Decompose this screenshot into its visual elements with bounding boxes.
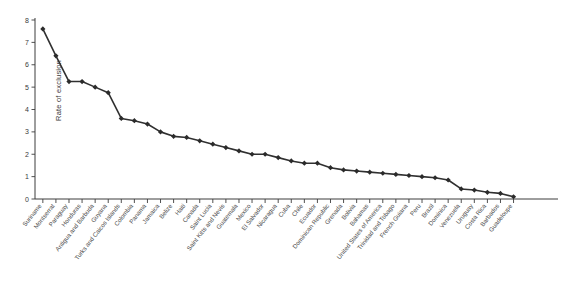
y-tick-label: 6 [25,61,29,68]
data-point [393,172,398,177]
data-point [406,173,411,178]
y-tick-label: 0 [25,196,29,203]
y-axis-ticks: 012345678 [25,17,35,203]
data-point [432,175,437,180]
data-point [367,170,372,175]
data-point [328,165,333,170]
y-tick-label: 7 [25,39,29,46]
data-point-markers [40,26,516,199]
x-axis-category-labels: SurinameMontserratParaguayHondurasAntigu… [21,202,514,262]
exclusion-rate-line [43,29,514,197]
x-tick-label: Belize [157,202,173,220]
data-point [315,161,320,166]
x-axis-ticks [43,199,514,203]
data-point [380,171,385,176]
data-point [171,134,176,139]
data-point [498,191,503,196]
data-point [276,155,281,160]
data-point [79,79,84,84]
data-point [66,79,71,84]
data-point [249,152,254,157]
data-point [485,190,490,195]
data-point [419,174,424,179]
chart-plot-area: 012345678 SurinameMontserratParaguayHond… [0,0,565,282]
data-point [132,118,137,123]
data-point [184,135,189,140]
data-point [210,142,215,147]
data-point [472,187,477,192]
y-tick-label: 4 [25,106,29,113]
data-point [263,152,268,157]
data-point [197,138,202,143]
y-axis-title: Rate of exclusion [54,31,63,151]
rate-of-exclusion-chart: Rate of exclusion 012345678 SurinameMont… [0,0,565,282]
data-point [289,158,294,163]
data-point [302,161,307,166]
y-tick-label: 3 [25,128,29,135]
data-point [223,145,228,150]
y-tick-label: 8 [25,17,29,24]
y-tick-label: 1 [25,173,29,180]
y-tick-label: 2 [25,151,29,158]
x-tick-label: Cuba [276,202,291,218]
data-point [354,168,359,173]
data-point [236,148,241,153]
y-tick-label: 5 [25,84,29,91]
data-point [341,167,346,172]
data-point [93,85,98,90]
data-point [40,26,45,31]
